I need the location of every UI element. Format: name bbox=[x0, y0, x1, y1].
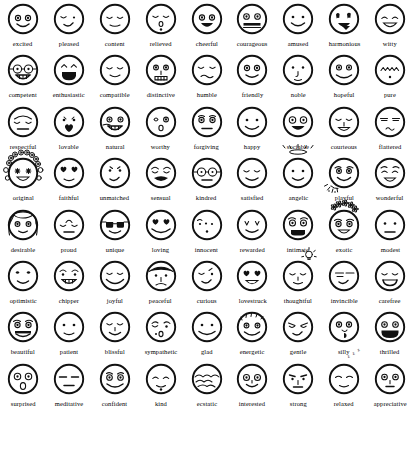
face-label: worthy bbox=[151, 143, 170, 151]
face-label: lovable bbox=[59, 143, 79, 151]
face-meditative-icon bbox=[47, 363, 91, 399]
face-label: peaceful bbox=[149, 297, 172, 305]
face-label: harmonious bbox=[328, 40, 360, 48]
face-label: unmatched bbox=[100, 194, 130, 202]
face-label: energetic bbox=[240, 348, 265, 356]
face-cell-original: original bbox=[0, 156, 46, 207]
face-cell-courageous: courageous bbox=[229, 2, 275, 53]
face-label: interested bbox=[239, 400, 265, 408]
face-cell-pure: pure bbox=[367, 53, 413, 104]
face-enthusiastic-icon bbox=[47, 54, 91, 90]
face-cell-hopeful: hopeful bbox=[321, 53, 367, 104]
face-surprised-icon bbox=[1, 363, 45, 399]
face-cell-sensual: sensual bbox=[138, 156, 184, 207]
face-respectful-icon bbox=[1, 106, 45, 142]
face-excited-icon bbox=[1, 3, 45, 39]
face-label: beautiful bbox=[11, 348, 35, 356]
face-unmatched-icon bbox=[93, 157, 137, 193]
face-cell-kindred: kindred bbox=[184, 156, 230, 207]
face-label: sympathetic bbox=[144, 348, 177, 356]
face-peaceful-icon bbox=[139, 260, 183, 296]
face-worthy-icon bbox=[139, 106, 183, 142]
face-label: distinctive bbox=[146, 91, 174, 99]
face-label: cheerful bbox=[195, 40, 217, 48]
face-unique-icon bbox=[93, 209, 137, 245]
face-cell-relieved: relieved bbox=[138, 2, 184, 53]
face-label: kindred bbox=[196, 194, 217, 202]
face-label: rewarded bbox=[240, 246, 265, 254]
face-appreciative-icon bbox=[368, 363, 412, 399]
face-cell-carefree: carefree bbox=[367, 259, 413, 310]
face-cell-ecstatic: ecstatic bbox=[184, 362, 230, 413]
face-wonderful-icon bbox=[368, 157, 412, 193]
face-curious-icon bbox=[185, 260, 229, 296]
face-desirable-icon bbox=[1, 209, 45, 245]
face-cell-kind: kind bbox=[138, 362, 184, 413]
face-cell-amused: amused bbox=[275, 2, 321, 53]
face-cell-beautiful: beautiful bbox=[0, 310, 46, 361]
face-label: natural bbox=[105, 143, 124, 151]
face-cell-compatible: compatible bbox=[92, 53, 138, 104]
face-pure-icon bbox=[368, 54, 412, 90]
face-cell-rewarded: rewarded bbox=[229, 208, 275, 259]
face-cell-wonderful: wonderful bbox=[367, 156, 413, 207]
face-content-icon bbox=[93, 3, 137, 39]
face-compatible-icon bbox=[93, 54, 137, 90]
face-innocent-icon bbox=[185, 209, 229, 245]
face-cell-witty: witty bbox=[367, 2, 413, 53]
face-harmonious-icon bbox=[322, 3, 366, 39]
face-cell-proud: proud bbox=[46, 208, 92, 259]
face-cell-thoughtful: thoughtful bbox=[275, 259, 321, 310]
face-witty-icon bbox=[368, 3, 412, 39]
face-distinctive-icon bbox=[139, 54, 183, 90]
face-cell-exotic: exotic bbox=[321, 208, 367, 259]
face-cell-angelic: angelic bbox=[275, 156, 321, 207]
face-cell-modest: modest bbox=[367, 208, 413, 259]
face-label: meditative bbox=[55, 400, 84, 408]
face-hopeful-icon bbox=[322, 54, 366, 90]
face-label: excited bbox=[13, 40, 33, 48]
face-label: loving bbox=[152, 246, 169, 254]
face-label: proud bbox=[61, 246, 77, 254]
face-cell-competent: competent bbox=[0, 53, 46, 104]
face-label: ecstatic bbox=[196, 400, 216, 408]
face-carefree-icon bbox=[368, 260, 412, 296]
face-label: humble bbox=[196, 91, 216, 99]
face-cell-pleased: pleased bbox=[46, 2, 92, 53]
face-flattered-icon bbox=[368, 106, 412, 142]
face-cell-invincible: invincible bbox=[321, 259, 367, 310]
face-cell-meditative: meditative bbox=[46, 362, 92, 413]
face-friendly-icon bbox=[230, 54, 274, 90]
face-label: amused bbox=[288, 40, 309, 48]
face-strong-icon bbox=[276, 363, 320, 399]
face-cell-confident: confident bbox=[92, 362, 138, 413]
face-patient-icon bbox=[47, 311, 91, 347]
face-rewarded-icon bbox=[230, 209, 274, 245]
face-cell-thrilled: thrilled bbox=[367, 310, 413, 361]
face-label: glad bbox=[201, 348, 213, 356]
face-cell-curious: curious bbox=[184, 259, 230, 310]
face-label: kind bbox=[155, 400, 167, 408]
svg-text:z: z bbox=[352, 350, 357, 356]
face-label: joyful bbox=[107, 297, 123, 305]
face-label: pleased bbox=[59, 40, 79, 48]
face-cell-surprised: surprised bbox=[0, 362, 46, 413]
face-label: compatible bbox=[100, 91, 130, 99]
face-noble-icon bbox=[276, 54, 320, 90]
face-sociable-icon bbox=[276, 106, 320, 142]
face-label: forgiving bbox=[194, 143, 219, 151]
face-loving-icon bbox=[139, 209, 183, 245]
face-cheerful-icon bbox=[185, 3, 229, 39]
face-label: courteous bbox=[331, 143, 357, 151]
face-cell-unmatched: unmatched bbox=[92, 156, 138, 207]
face-cell-enthusiastic: enthusiastic bbox=[46, 53, 92, 104]
face-invincible-icon bbox=[322, 260, 366, 296]
face-cell-glad: glad bbox=[184, 310, 230, 361]
face-label: curious bbox=[197, 297, 217, 305]
face-label: noble bbox=[291, 91, 306, 99]
face-label: invincible bbox=[331, 297, 358, 305]
face-thoughtful-icon bbox=[276, 260, 320, 296]
face-label: chipper bbox=[59, 297, 79, 305]
face-label: flattered bbox=[379, 143, 402, 151]
face-angelic-icon bbox=[276, 157, 320, 193]
